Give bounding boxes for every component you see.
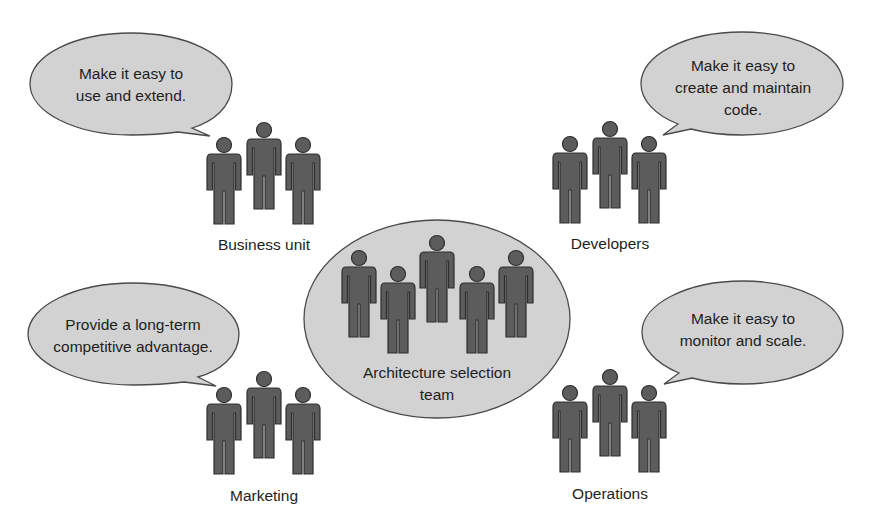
quote-line-3: code. [724, 101, 762, 118]
quote-line-1: Provide a long-term [65, 316, 200, 333]
speech-bubble: Make it easy to monitor and scale. [642, 281, 843, 384]
person-icon [553, 137, 587, 224]
person-group [553, 122, 666, 224]
person-icon [593, 370, 627, 457]
quote-line-1: Make it easy to [691, 310, 795, 327]
person-group [553, 370, 666, 473]
quote-line-2: use and extend. [76, 87, 186, 104]
quote-line-1: Make it easy to [79, 65, 183, 82]
stakeholder-label: Marketing [230, 487, 298, 504]
quote-line-2: create and maintain [675, 79, 811, 96]
stakeholder-label: Operations [572, 485, 648, 502]
architecture-selection-team: Architecture selection team [304, 220, 570, 418]
speech-bubble: Make it easy to use and extend. [30, 33, 232, 136]
quote-line-2: competitive advantage. [53, 338, 212, 355]
person-icon [632, 137, 666, 224]
speech-bubble: Provide a long-term competitive advantag… [28, 283, 239, 386]
speech-bubble: Make it easy to create and maintain code… [641, 32, 843, 135]
team-label-line-1: Architecture selection [363, 364, 511, 381]
person-icon [247, 372, 281, 459]
person-icon [632, 386, 666, 473]
person-icon [247, 123, 281, 210]
person-icon [207, 138, 241, 225]
person-group [207, 123, 320, 225]
person-icon [553, 386, 587, 473]
person-icon [286, 138, 320, 225]
stakeholder-label: Business unit [218, 236, 311, 253]
stakeholder-label: Developers [571, 235, 650, 252]
person-icon [286, 388, 320, 475]
team-label-line-2: team [420, 386, 454, 403]
person-group [207, 372, 320, 475]
quote-line-2: monitor and scale. [680, 332, 807, 349]
stakeholder-marketing: Provide a long-term competitive advantag… [28, 283, 320, 504]
person-icon [593, 122, 627, 209]
stakeholder-operations: Make it easy to monitor and scale. Opera… [553, 281, 843, 502]
stakeholder-business-unit: Make it easy to use and extend. Business… [30, 33, 320, 253]
stakeholder-diagram: Make it easy to use and extend. Business… [0, 0, 869, 521]
person-icon [207, 388, 241, 475]
quote-line-1: Make it easy to [691, 57, 795, 74]
stakeholder-developers: Make it easy to create and maintain code… [553, 32, 843, 252]
